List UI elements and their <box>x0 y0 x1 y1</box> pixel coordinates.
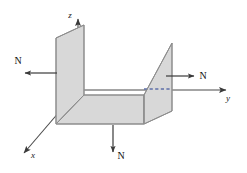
force-label-bottom: N <box>117 150 124 161</box>
force-label-right: N <box>199 70 206 81</box>
force-label-left: N <box>14 55 21 66</box>
figure-background <box>0 0 247 173</box>
figure-canvas: N N N z y x <box>0 0 247 173</box>
z-axis-label: z <box>67 10 72 20</box>
x-axis-label: x <box>30 150 35 160</box>
y-axis-label: y <box>225 93 230 103</box>
channel-normals-diagram: N N N z y x <box>0 0 247 173</box>
